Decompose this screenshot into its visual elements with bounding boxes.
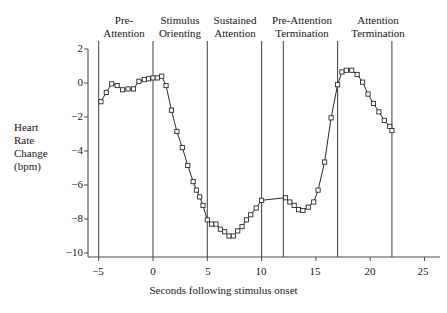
- data-point-marker: [142, 78, 146, 82]
- data-point-marker: [210, 222, 214, 226]
- data-point-marker: [110, 82, 114, 86]
- data-point-marker: [390, 129, 394, 133]
- phase-divider-lines: [99, 41, 392, 257]
- data-point-marker: [147, 77, 151, 81]
- data-point-marker: [350, 68, 354, 72]
- data-point-marker: [126, 87, 130, 91]
- data-point-marker: [115, 83, 119, 87]
- heart-rate-series-line: [101, 70, 392, 236]
- data-point-marker: [260, 198, 264, 202]
- data-point-marker: [336, 83, 340, 87]
- data-point-marker: [151, 76, 155, 80]
- data-point-marker: [244, 218, 248, 222]
- data-point-marker: [382, 118, 386, 122]
- data-point-marker: [312, 200, 316, 204]
- data-point-marker: [322, 160, 326, 164]
- data-point-marker: [316, 188, 320, 192]
- data-point-marker: [340, 70, 344, 74]
- data-point-marker: [388, 124, 392, 128]
- data-point-marker: [366, 92, 370, 96]
- data-point-marker: [283, 196, 287, 200]
- data-point-marker: [249, 213, 253, 217]
- heart-rate-series-markers: [99, 68, 394, 238]
- data-point-marker: [301, 208, 305, 212]
- data-point-marker: [169, 108, 173, 112]
- data-point-marker: [201, 203, 205, 207]
- data-point-marker: [344, 68, 348, 72]
- data-point-marker: [131, 87, 135, 91]
- data-point-marker: [120, 88, 124, 92]
- data-point-marker: [306, 205, 310, 209]
- data-point-marker: [223, 230, 227, 234]
- data-point-marker: [355, 72, 359, 76]
- data-point-marker: [186, 163, 190, 167]
- data-point-marker: [137, 79, 141, 83]
- data-point-marker: [191, 180, 195, 184]
- data-point-marker: [296, 208, 300, 212]
- data-point-marker: [254, 206, 258, 210]
- data-point-marker: [214, 222, 218, 226]
- data-point-marker: [329, 116, 333, 120]
- data-point-marker: [164, 83, 168, 87]
- data-point-marker: [371, 101, 375, 105]
- data-point-marker: [180, 146, 184, 150]
- data-point-marker: [104, 90, 108, 94]
- data-point-marker: [99, 100, 103, 104]
- data-point-marker: [194, 188, 198, 192]
- y-axis-ticks: [84, 49, 88, 253]
- data-point-marker: [160, 74, 164, 78]
- data-point-marker: [205, 218, 209, 222]
- data-point-marker: [227, 234, 231, 238]
- data-point-marker: [292, 203, 296, 207]
- data-point-marker: [288, 200, 292, 204]
- data-point-marker: [377, 110, 381, 114]
- data-point-marker: [231, 234, 235, 238]
- plot-area: [0, 0, 447, 313]
- data-point-marker: [236, 229, 240, 233]
- data-point-marker: [155, 76, 159, 80]
- heart-rate-change-chart: Pre- Attention Stimulus Orienting Sustai…: [0, 0, 447, 313]
- data-point-marker: [175, 129, 179, 133]
- data-point-marker: [218, 227, 222, 231]
- data-point-marker: [198, 195, 202, 199]
- x-axis-ticks: [99, 257, 425, 261]
- data-point-marker: [240, 225, 244, 229]
- data-point-marker: [361, 80, 365, 84]
